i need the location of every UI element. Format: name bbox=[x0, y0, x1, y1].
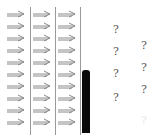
right-arrow-icon bbox=[57, 106, 77, 114]
right-arrow-icon bbox=[32, 70, 52, 78]
column-divider bbox=[80, 7, 81, 135]
right-arrow-icon bbox=[6, 58, 26, 66]
right-arrow-icon bbox=[32, 10, 52, 18]
right-arrow-icon bbox=[57, 34, 77, 42]
right-arrow-icon bbox=[6, 34, 26, 42]
right-arrow-icon bbox=[57, 82, 77, 90]
right-arrow-icon bbox=[6, 106, 26, 114]
question-mark: ? bbox=[141, 62, 147, 73]
right-arrow-icon bbox=[32, 106, 52, 114]
right-arrow-icon bbox=[32, 58, 52, 66]
right-arrow-icon bbox=[57, 46, 77, 54]
right-arrow-icon bbox=[6, 10, 26, 18]
question-mark: ? bbox=[113, 68, 119, 79]
right-arrow-icon bbox=[57, 118, 77, 126]
question-mark: ? bbox=[141, 40, 147, 51]
right-arrow-icon bbox=[57, 22, 77, 30]
right-arrow-icon bbox=[57, 58, 77, 66]
right-arrow-icon bbox=[6, 118, 26, 126]
question-mark: ? bbox=[141, 84, 147, 95]
right-arrow-icon bbox=[57, 70, 77, 78]
column-divider bbox=[30, 7, 31, 135]
right-arrow-icon bbox=[57, 10, 77, 18]
question-mark: ? bbox=[113, 92, 119, 103]
question-mark: ? bbox=[113, 46, 119, 57]
column-divider bbox=[55, 7, 56, 135]
right-arrow-icon bbox=[32, 34, 52, 42]
right-arrow-icon bbox=[32, 22, 52, 30]
right-arrow-icon bbox=[6, 22, 26, 30]
right-arrow-icon bbox=[32, 82, 52, 90]
question-mark: ? bbox=[113, 24, 119, 35]
right-arrow-icon bbox=[32, 94, 52, 102]
right-arrow-icon bbox=[32, 46, 52, 54]
black-bar bbox=[82, 70, 90, 133]
right-arrow-icon bbox=[32, 118, 52, 126]
right-arrow-icon bbox=[6, 82, 26, 90]
right-arrow-icon bbox=[57, 94, 77, 102]
right-arrow-icon bbox=[6, 70, 26, 78]
right-arrow-icon bbox=[6, 94, 26, 102]
question-mark: ? bbox=[141, 115, 147, 126]
right-arrow-icon bbox=[6, 46, 26, 54]
